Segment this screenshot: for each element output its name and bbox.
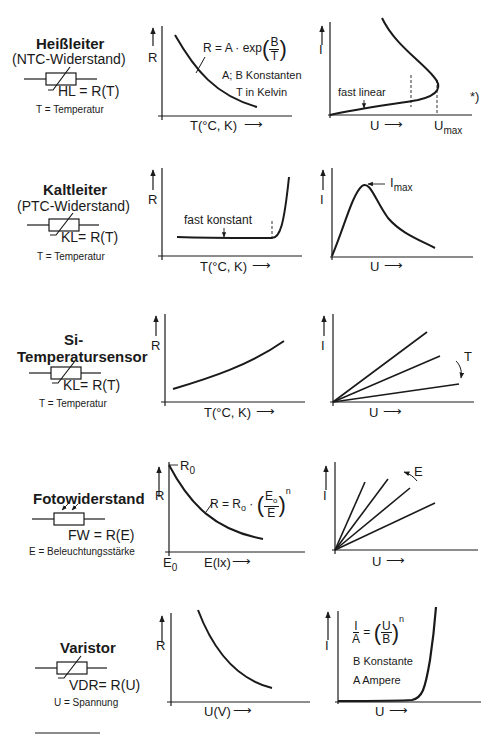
formula-ntc: R = A · exp(BT) — [203, 36, 287, 62]
annotation-ptc-fast-konstant: fast konstant — [184, 213, 252, 227]
x-label-varistor-u: U(V) — [204, 704, 231, 719]
note-ntc-kelvin: T in Kelvin — [236, 86, 287, 98]
component-name-varistor: Varistor — [60, 639, 116, 656]
varistor-resistor-symbol — [35, 656, 107, 678]
x-label-ntc-u: U — [370, 118, 379, 133]
component-subtitle-ptc: (PTC-Widerstand) — [17, 198, 130, 214]
x-arrow-ldr-e: ⟶ — [232, 554, 251, 569]
si-i-u-lines — [333, 332, 459, 402]
component-name-si-line1: Si- — [64, 331, 83, 348]
variable-note-ptc: T = Temperatur — [37, 251, 105, 262]
x-marker-ldr-e0: E0 — [163, 555, 177, 573]
formula-varistor: IA = (UB)n — [352, 614, 404, 646]
y-label-ntc-r: R — [148, 50, 157, 65]
x-label-ptc-u: U — [370, 259, 379, 274]
si-r-t-curve — [173, 341, 284, 389]
ldr-i-u-lines — [335, 479, 435, 550]
ptc-i-u-curve — [332, 185, 435, 256]
x-arrow-si-u: ⟶ — [383, 404, 402, 419]
x-arrow-ptc-t: ⟶ — [252, 258, 271, 273]
y-label-ldr-r: R — [155, 488, 164, 503]
x-label-ldr-u: U — [372, 554, 381, 569]
x-arrow-varistor-i-u: ⟶ — [389, 703, 408, 718]
annotation-ntc-fast-linear: fast linear — [338, 86, 386, 98]
y-label-ldr-i: I — [323, 488, 327, 503]
x-marker-ntc-umax: Umax — [434, 118, 462, 136]
component-name-ptc: Kaltleiter — [43, 181, 107, 198]
x-label-si-u: U — [369, 405, 378, 420]
ntc-i-u-curve — [330, 18, 438, 115]
note-varistor-ampere: A Ampere — [353, 674, 401, 686]
x-arrow-si-t: ⟶ — [256, 404, 275, 419]
variable-note-varistor: U = Spannung — [54, 697, 118, 708]
variable-note-si: T = Temperatur — [39, 398, 107, 409]
note-varistor-constant: B Konstante — [353, 655, 413, 667]
symbol-label-ldr: FW = R(E) — [68, 527, 135, 543]
y-label-ntc-i: I — [319, 42, 323, 57]
y-label-si-i: I — [321, 338, 325, 353]
component-name-si-line2: Temperatursensor — [17, 348, 148, 365]
variable-note-ntc: T = Temperatur — [36, 104, 104, 115]
y-label-varistor-r: R — [156, 638, 165, 653]
x-arrow-ptc-u: ⟶ — [384, 258, 403, 273]
x-label-si-t: T(°C, K) — [204, 405, 251, 420]
varistor-r-u-curve — [198, 610, 272, 688]
y-label-varistor-i: I — [325, 638, 329, 653]
x-arrow-varistor-u: ⟶ — [233, 703, 252, 718]
y-label-si-r: R — [151, 338, 160, 353]
footnote-mark-ntc: *) — [470, 89, 479, 104]
param-label-si-t: T — [464, 349, 472, 364]
param-label-ldr-e: E — [414, 464, 423, 479]
x-label-ldr-e: E(lx) — [204, 555, 231, 570]
formula-ntc-lhs: R = A · exp — [203, 41, 262, 55]
component-name-ntc: Heißleiter — [36, 35, 104, 52]
ldr-resistor-symbol — [32, 504, 105, 525]
note-ntc-constants: A; B Konstanten — [222, 69, 302, 81]
symbol-label-si: KL= R(T) — [63, 377, 120, 393]
formula-ldr: R = Ro · (EoE)n — [210, 486, 291, 520]
y-label-ptc-i: I — [320, 192, 324, 207]
symbol-label-ptc: KL= R(T) — [61, 229, 118, 245]
component-name-ldr: Fotowiderstand — [33, 490, 145, 507]
symbol-label-varistor: VDR= R(U) — [69, 677, 140, 693]
peak-label-ptc-imax: Imax — [390, 175, 413, 193]
x-label-ntc-t: T(°C, K) — [190, 118, 237, 133]
ldr-i-u-axes — [326, 462, 478, 554]
formula-ntc-den: T — [271, 50, 278, 63]
y-marker-ldr-r0: R0 — [180, 458, 195, 476]
si-r-t-axes — [156, 314, 305, 406]
formula-ntc-num: B — [269, 36, 279, 50]
x-arrow-ntc-t: ⟶ — [244, 117, 263, 132]
x-arrow-ldr-u: ⟶ — [386, 553, 405, 568]
y-label-ptc-r: R — [148, 192, 157, 207]
x-label-ptc-t: T(°C, K) — [200, 259, 247, 274]
varistor-r-u-axes — [162, 613, 310, 706]
x-label-varistor-i-u: U — [375, 704, 384, 719]
x-arrow-ntc-u: ⟶ — [384, 117, 403, 132]
component-subtitle-ntc: (NTC-Widerstand) — [12, 51, 126, 67]
symbol-label-ntc: HL = R(T) — [58, 83, 119, 99]
variable-note-ldr: E = Beleuchtungsstärke — [29, 546, 135, 557]
